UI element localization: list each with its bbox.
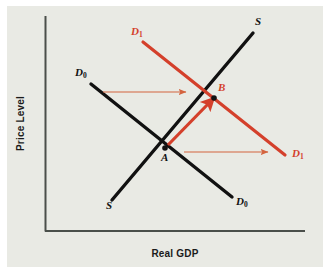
label-s-bottom: S: [106, 200, 112, 211]
y-axis-title: Price Level: [15, 84, 26, 164]
label-s-top: S: [255, 16, 261, 27]
label-d0-bottom: D0: [236, 196, 248, 207]
label-d0-bottom-text: D: [236, 195, 244, 207]
label-d0-top: D0: [75, 67, 87, 78]
label-d0-bottom-sub: 0: [244, 200, 248, 209]
label-d0-top-text: D: [75, 66, 83, 78]
label-d0-top-sub: 0: [83, 71, 87, 80]
point-a-marker: [162, 145, 168, 151]
x-axis-title: Real GDP: [125, 248, 225, 259]
economics-diagram: Price Level Real GDP D1 S D0 D1 S D0 A B: [0, 0, 330, 273]
chart-canvas: [0, 0, 330, 273]
label-d1-top: D1: [131, 26, 143, 37]
label-d1-top-text: D: [131, 25, 139, 37]
label-d1-right: D1: [292, 148, 304, 159]
label-d1-right-text: D: [292, 147, 300, 159]
point-b-marker: [211, 95, 217, 101]
label-d1-top-sub: 1: [139, 30, 143, 39]
point-a-label: A: [161, 152, 168, 163]
demand-curve-d0: [91, 84, 232, 197]
point-b-label: B: [218, 82, 225, 93]
label-d1-right-sub: 1: [300, 152, 304, 161]
